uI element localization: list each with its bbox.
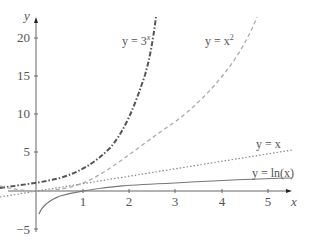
annotation-x-squared: y = x2 (205, 33, 234, 48)
ytick-label: 10 (17, 106, 30, 121)
ytick-label: 5 (24, 144, 31, 159)
xtick-label: 5 (265, 194, 272, 209)
xtick-label: 3 (172, 194, 179, 209)
xtick-label: 4 (219, 194, 226, 209)
annotation-ln-x: y = ln(x) (252, 166, 294, 180)
xtick-label: 1 (80, 194, 87, 209)
function-plot: 20 15 10 5 −5 1 2 3 4 5 y x y = 3x y = x… (0, 0, 309, 244)
ytick-label: −5 (16, 222, 30, 237)
x-axis-arrow-icon (286, 189, 292, 193)
x-axis-label: x (290, 194, 297, 209)
ytick-label: 20 (17, 30, 30, 45)
line-y-equals-x (0, 150, 292, 197)
ytick-label: 15 (17, 68, 30, 83)
y-axis-label: y (22, 8, 30, 23)
curve-ln-x (39, 178, 292, 214)
annotation-3-pow-x: y = 3x (122, 33, 151, 48)
annotation-y-equals-x: y = x (256, 137, 281, 151)
y-axis-arrow-icon (34, 17, 38, 23)
xtick-label: 2 (126, 194, 133, 209)
